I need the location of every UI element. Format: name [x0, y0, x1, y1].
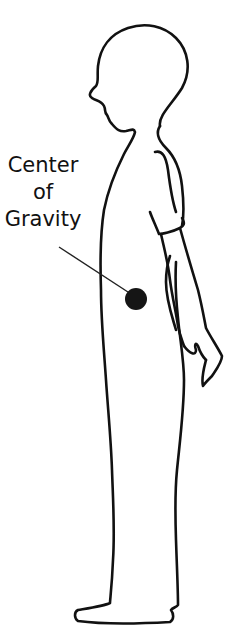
arm-front — [161, 234, 184, 346]
body-outline-back — [158, 126, 184, 226]
center-of-gravity-dot — [125, 288, 147, 310]
shoulder-line — [155, 152, 176, 212]
pointer-line — [59, 247, 131, 294]
body-outline-front — [75, 25, 188, 623]
hand — [184, 344, 206, 360]
sleeve-outline — [150, 212, 184, 234]
arm-back — [180, 228, 222, 386]
child-figure-illustration — [0, 0, 247, 641]
